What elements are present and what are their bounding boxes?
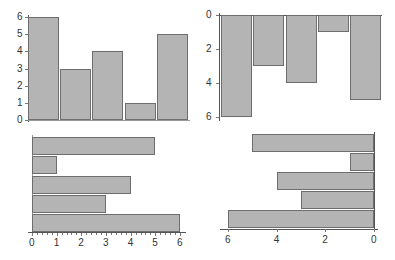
- x-tick: [101, 233, 102, 235]
- x-tick: [325, 229, 326, 232]
- x-tick: [32, 233, 33, 236]
- bar: [277, 172, 374, 190]
- x-tick-label: 6: [177, 238, 183, 248]
- bar: [252, 134, 374, 152]
- bar: [60, 69, 91, 121]
- bar: [221, 15, 252, 117]
- x-tick: [116, 233, 117, 235]
- x-tick-label: 1: [54, 238, 60, 248]
- x-tick: [150, 233, 151, 235]
- y-tick-label: 1: [17, 98, 23, 108]
- x-tick: [175, 233, 176, 235]
- x-tick: [81, 233, 82, 236]
- bar: [32, 137, 155, 155]
- x-tick: [121, 233, 122, 235]
- x-tick: [71, 233, 72, 235]
- y-tick-label: 0: [17, 115, 23, 125]
- bar: [125, 103, 156, 120]
- bar: [32, 214, 180, 232]
- x-tick: [277, 229, 278, 232]
- y-tick: [25, 120, 28, 121]
- x-tick-label: 2: [322, 235, 328, 245]
- x-tick: [228, 229, 229, 232]
- x-tick-label: 4: [274, 235, 280, 245]
- bar: [350, 15, 381, 100]
- x-tick: [136, 233, 137, 235]
- bar: [228, 210, 374, 228]
- x-tick: [170, 233, 171, 235]
- y-tick-label: 4: [17, 46, 23, 56]
- y-tick-label: 5: [17, 29, 23, 39]
- y-tick: [216, 49, 219, 50]
- x-tick: [155, 233, 156, 236]
- x-tick: [165, 233, 166, 235]
- x-tick-label: 6: [225, 235, 231, 245]
- x-tick: [42, 233, 43, 235]
- x-tick: [141, 233, 142, 235]
- x-tick: [126, 233, 127, 235]
- bar: [318, 15, 349, 32]
- x-tick: [52, 233, 53, 235]
- y-tick-label: 6: [17, 12, 23, 22]
- y-tick-label: 4: [206, 78, 212, 88]
- bar: [350, 153, 374, 171]
- bar: [286, 15, 317, 83]
- x-tick-label: 5: [152, 238, 158, 248]
- x-tick: [37, 233, 38, 235]
- x-tick: [62, 233, 63, 235]
- y-tick: [216, 15, 219, 16]
- x-tick: [67, 233, 68, 235]
- bar: [32, 195, 106, 213]
- x-tick: [160, 233, 161, 235]
- bar: [32, 156, 57, 174]
- x-tick: [86, 233, 87, 235]
- x-tick: [374, 229, 375, 232]
- x-tick-label: 0: [29, 238, 35, 248]
- x-tick-label: 3: [103, 238, 109, 248]
- x-tick: [180, 233, 181, 236]
- x-axis: [220, 229, 378, 230]
- x-tick: [76, 233, 77, 235]
- y-tick-label: 2: [17, 81, 23, 91]
- y-tick-label: 6: [206, 112, 212, 122]
- x-tick: [91, 233, 92, 235]
- x-tick: [57, 233, 58, 236]
- bar: [157, 34, 188, 120]
- y-axis: [219, 13, 220, 121]
- bar: [92, 51, 123, 120]
- x-tick-label: 4: [128, 238, 134, 248]
- bar: [28, 17, 59, 120]
- x-tick-label: 2: [78, 238, 84, 248]
- bar: [32, 176, 131, 194]
- bar: [253, 15, 284, 66]
- y-tick: [216, 83, 219, 84]
- bar: [301, 191, 374, 209]
- y-axis: [374, 132, 375, 229]
- x-tick: [111, 233, 112, 235]
- y-tick: [216, 117, 219, 118]
- x-tick: [96, 233, 97, 235]
- y-tick-label: 2: [206, 44, 212, 54]
- x-tick: [131, 233, 132, 236]
- x-tick: [145, 233, 146, 235]
- x-tick: [47, 233, 48, 235]
- x-axis: [28, 120, 190, 121]
- y-tick-label: 3: [17, 64, 23, 74]
- x-tick: [106, 233, 107, 236]
- x-tick-label: 0: [371, 235, 377, 245]
- y-tick-label: 0: [206, 10, 212, 20]
